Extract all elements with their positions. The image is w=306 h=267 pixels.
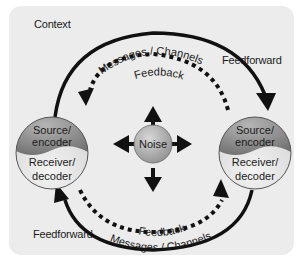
arrowhead-icon	[78, 88, 94, 106]
right-receiver-label-2: decoder	[235, 170, 275, 182]
top-feedback-arc	[78, 54, 228, 110]
right-source-label-1: Source/	[236, 124, 275, 136]
right-receiver-label-1: Receiver/	[232, 156, 279, 168]
left-node: Source/ encoder Receiver/ decoder	[14, 115, 94, 195]
right-node: Source/ encoder Receiver/ decoder	[217, 115, 297, 195]
communication-model-diagram: Messages / Channels Feedback Feedback Me…	[0, 0, 306, 267]
bottom-feedback-label: Feedback	[138, 221, 187, 238]
top-feedback-label: Feedback	[133, 65, 187, 81]
noise-label: Noise	[139, 138, 167, 150]
noise-node: Noise	[113, 106, 192, 192]
left-source-label-1: Source/	[33, 124, 72, 136]
left-source-label-2: encoder	[32, 136, 72, 148]
left-receiver-label-2: decoder	[32, 170, 72, 182]
arrowhead-icon	[213, 179, 229, 198]
arrowhead-icon	[256, 93, 276, 111]
left-receiver-label-1: Receiver/	[29, 156, 76, 168]
right-source-label-2: encoder	[235, 136, 275, 148]
